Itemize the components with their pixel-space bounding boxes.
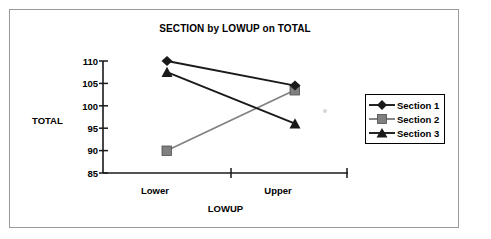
legend-item-section-1: Section 1	[369, 98, 439, 112]
plot-area	[103, 61, 348, 173]
legend-marker-square-icon	[369, 112, 395, 126]
chart-legend: Section 1 Section 2 Sect	[365, 94, 445, 144]
y-tick-label-105: 105	[68, 78, 98, 89]
marker-section-1-lower	[162, 56, 173, 66]
legend-label-section-3: Section 3	[395, 128, 439, 139]
chart-figure: SECTION by LOWUP on TOTAL TOTAL LOWUP 11…	[0, 0, 491, 239]
y-tick-label-110: 110	[68, 56, 98, 67]
y-tick-label-85: 85	[68, 168, 98, 179]
figure-border: SECTION by LOWUP on TOTAL TOTAL LOWUP 11…	[9, 9, 459, 228]
y-tick-label-100: 100	[68, 101, 98, 112]
series-section-3-line	[167, 72, 295, 124]
x-axis-label: LOWUP	[103, 203, 348, 214]
marker-section-2-lower	[162, 146, 172, 156]
legend-label-section-2: Section 2	[395, 114, 439, 125]
legend-marker-diamond-icon	[369, 98, 395, 112]
legend-item-section-2: Section 2	[369, 112, 439, 126]
series-section-2-line	[167, 90, 295, 151]
series-section-1-line	[167, 61, 295, 86]
marker-section-3-upper	[290, 118, 301, 128]
legend-marker-triangle-icon	[369, 126, 395, 140]
legend-item-section-3: Section 3	[369, 126, 439, 140]
chart-title: SECTION by LOWUP on TOTAL	[10, 23, 460, 34]
y-tick-label-95: 95	[68, 123, 98, 134]
y-tick-label-90: 90	[68, 145, 98, 156]
y-axis-label: TOTAL	[32, 115, 63, 126]
legend-label-section-1: Section 1	[395, 100, 439, 111]
marker-section-3-lower	[162, 67, 173, 77]
plot-svg	[103, 61, 363, 191]
